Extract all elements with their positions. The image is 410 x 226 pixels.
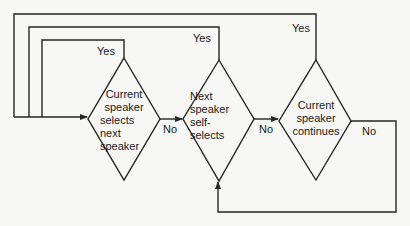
yes-label-1: Yes bbox=[97, 45, 115, 58]
yes-label-3: Yes bbox=[292, 22, 310, 35]
node-current-speaker-continues: Current speaker continues bbox=[284, 99, 348, 138]
no-label-2: No bbox=[259, 123, 273, 136]
node-next-speaker-self-selects: Next speaker self- selects bbox=[187, 90, 250, 142]
no-label-1: No bbox=[163, 123, 177, 136]
yes-loop-3 bbox=[14, 14, 316, 117]
node-current-speaker-selects: Current speaker selects next speaker bbox=[94, 88, 154, 153]
no-label-3: No bbox=[362, 125, 376, 138]
yes-label-2: Yes bbox=[193, 32, 211, 45]
